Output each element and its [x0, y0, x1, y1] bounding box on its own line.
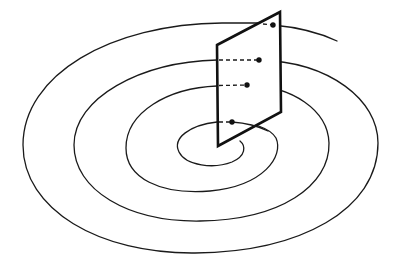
intersection-point-4: [229, 119, 234, 124]
spiral-turn-4: [23, 23, 378, 253]
spiral-outer-tail: [273, 25, 337, 41]
section-plane: [217, 12, 281, 146]
spiral-turn-3: [74, 60, 329, 221]
poincare-section-diagram: [0, 0, 396, 271]
intersection-point-2: [256, 57, 261, 62]
intersection-point-3: [244, 82, 249, 87]
spiral-trajectory: [23, 23, 378, 253]
intersection-point-1: [270, 22, 275, 27]
